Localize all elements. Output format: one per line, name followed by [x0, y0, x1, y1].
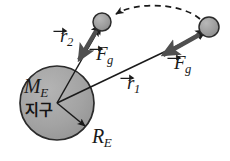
label-fg-far-symbol: F [174, 53, 186, 72]
label-force-vector-fg-near: Fg [96, 44, 114, 63]
label-fg-far-subscript: g [185, 62, 191, 76]
label-r2-subscript: 2 [67, 35, 73, 49]
label-position-vector-r1: r1 [127, 73, 141, 92]
label-earth-mass-symbol: M [24, 75, 41, 97]
label-earth-radius-symbol: R [92, 125, 104, 147]
label-r1-subscript: 1 [134, 82, 140, 96]
satellite-position-1 [199, 17, 219, 37]
label-force-vector-fg-far: Fg [174, 53, 192, 72]
label-earth-radius: RE [92, 126, 112, 146]
satellite-position-2 [93, 13, 111, 31]
physics-diagram-gravitation: r2 Fg r1 Fg ME 지구 RE [0, 0, 230, 161]
label-earth-mass-subscript: E [40, 85, 48, 100]
label-earth-name-korean: 지구 [25, 103, 53, 118]
label-position-vector-r2: r2 [60, 26, 74, 45]
label-fg-near-symbol: F [96, 44, 108, 63]
label-earth-radius-subscript: E [104, 135, 112, 150]
label-earth-mass: ME [24, 76, 49, 96]
orbital-transfer-path [116, 6, 200, 19]
label-fg-near-subscript: g [107, 53, 113, 67]
